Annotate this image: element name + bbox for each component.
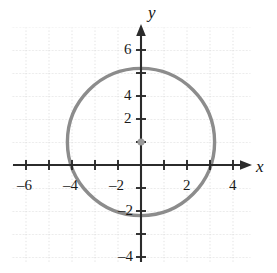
x-tick-label-2: 2 bbox=[183, 178, 191, 193]
x-tick-label-4: 4 bbox=[229, 178, 237, 193]
y-tick-label-minus2: –2 bbox=[118, 203, 133, 218]
coordinate-plane bbox=[0, 0, 277, 273]
y-tick-label-2: 2 bbox=[124, 111, 132, 126]
x-tick-label-minus6: –6 bbox=[17, 178, 32, 193]
x-axis-label: x bbox=[256, 158, 264, 175]
x-tick-label-minus4: –4 bbox=[63, 178, 78, 193]
x-tick-label-minus2: –2 bbox=[109, 178, 124, 193]
graph-figure: –6 –4 –2 2 4 6 4 2 –2 –4 x y bbox=[0, 0, 277, 273]
circle-center-point bbox=[137, 138, 144, 145]
y-axis-label: y bbox=[148, 4, 156, 21]
y-tick-label-6: 6 bbox=[124, 42, 132, 57]
y-tick-label-4: 4 bbox=[124, 88, 132, 103]
y-tick-label-minus4: –4 bbox=[118, 249, 133, 264]
